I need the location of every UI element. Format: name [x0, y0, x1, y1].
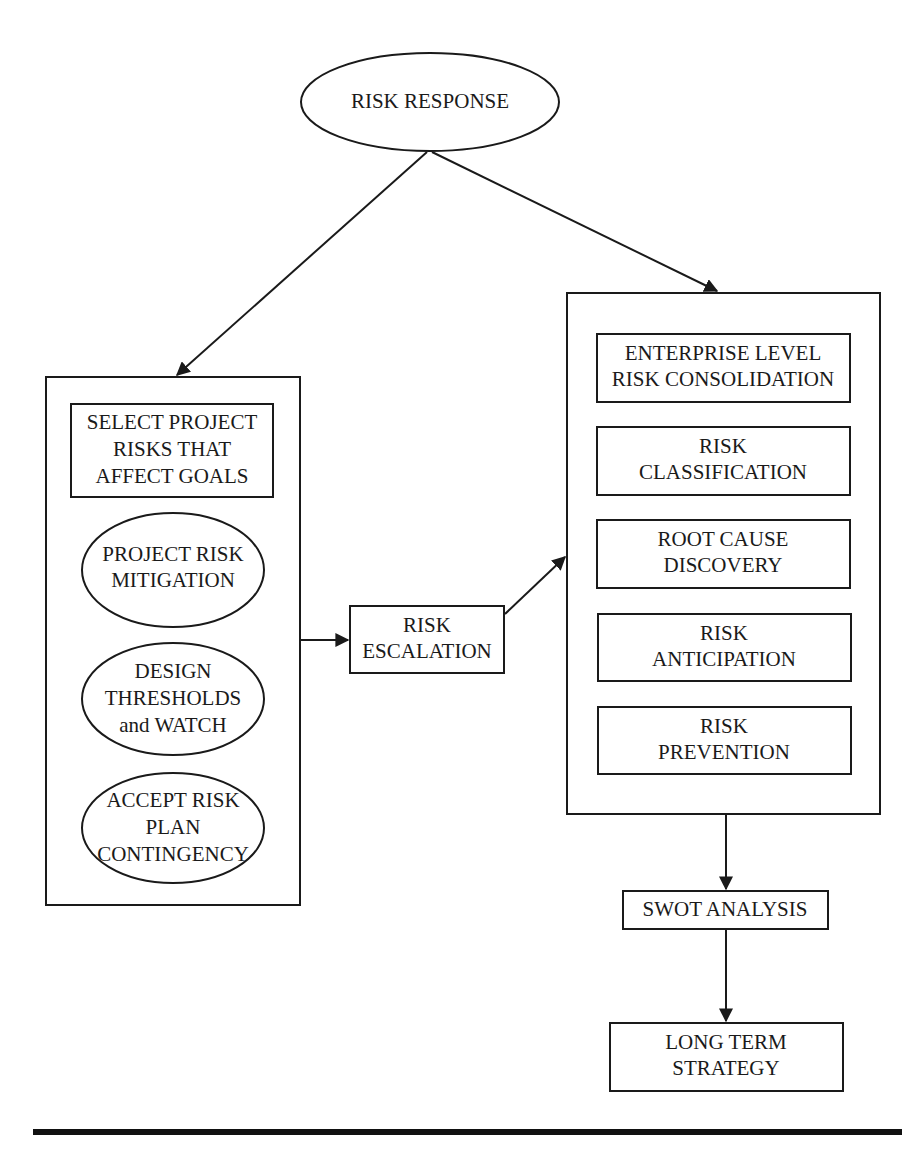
node-line: RISK — [700, 621, 748, 645]
root-cause-discovery-node: ROOT CAUSE DISCOVERY — [597, 520, 850, 588]
node-line: MITIGATION — [111, 568, 235, 592]
swot-label: SWOT ANALYSIS — [643, 897, 808, 921]
long-term-strategy-node: LONG TERM STRATEGY — [610, 1023, 843, 1091]
node-line: SELECT PROJECT — [87, 410, 258, 434]
node-line: ESCALATION — [362, 639, 492, 663]
node-line: RISK — [403, 613, 451, 637]
arrow-response-to-right-group — [432, 152, 717, 291]
arrow-escalation-to-right-group — [505, 557, 565, 614]
node-line: LONG TERM — [665, 1030, 787, 1054]
node-line: RISK CONSOLIDATION — [612, 367, 834, 391]
node-line: AFFECT GOALS — [95, 464, 248, 488]
node-line: ENTERPRISE LEVEL — [625, 341, 822, 365]
select-project-risks-node: SELECT PROJECT RISKS THAT AFFECT GOALS — [71, 404, 273, 497]
risk-response-label: RISK RESPONSE — [351, 89, 509, 113]
enterprise-risk-consolidation-node: ENTERPRISE LEVEL RISK CONSOLIDATION — [597, 334, 850, 402]
left-group-container: SELECT PROJECT RISKS THAT AFFECT GOALS P… — [46, 377, 300, 905]
node-line: THRESHOLDS — [105, 686, 242, 710]
arrow-response-to-left-group — [177, 152, 427, 375]
node-line: and WATCH — [119, 713, 227, 737]
node-line: ANTICIPATION — [652, 647, 796, 671]
node-line: DESIGN — [135, 659, 212, 683]
design-thresholds-node: DESIGN THRESHOLDS and WATCH — [82, 643, 264, 755]
risk-response-node: RISK RESPONSE — [301, 53, 559, 151]
node-line: DISCOVERY — [663, 553, 782, 577]
risk-classification-node: RISK CLASSIFICATION — [597, 427, 850, 495]
accept-risk-node: ACCEPT RISK PLAN CONTINGENCY — [82, 773, 264, 883]
node-line: PROJECT RISK — [102, 542, 243, 566]
node-line: PLAN — [146, 815, 201, 839]
node-line: RISK — [700, 714, 748, 738]
risk-prevention-node: RISK PREVENTION — [598, 707, 851, 774]
node-line: ROOT CAUSE — [658, 527, 789, 551]
node-line: ACCEPT RISK — [106, 788, 239, 812]
node-line: PREVENTION — [658, 740, 790, 764]
node-line: CLASSIFICATION — [639, 460, 807, 484]
risk-anticipation-node: RISK ANTICIPATION — [598, 614, 851, 681]
node-line: RISKS THAT — [113, 437, 231, 461]
risk-response-diagram: RISK RESPONSE SELECT PROJECT RISKS THAT … — [0, 0, 920, 1151]
node-line: STRATEGY — [672, 1056, 779, 1080]
node-line: CONTINGENCY — [97, 842, 249, 866]
bottom-rule-divider — [33, 1129, 902, 1135]
risk-escalation-node: RISK ESCALATION — [350, 606, 504, 673]
node-line: RISK — [699, 434, 747, 458]
right-group-container: ENTERPRISE LEVEL RISK CONSOLIDATION RISK… — [567, 293, 880, 814]
swot-analysis-node: SWOT ANALYSIS — [623, 891, 828, 929]
project-risk-mitigation-node: PROJECT RISK MITIGATION — [82, 513, 264, 627]
